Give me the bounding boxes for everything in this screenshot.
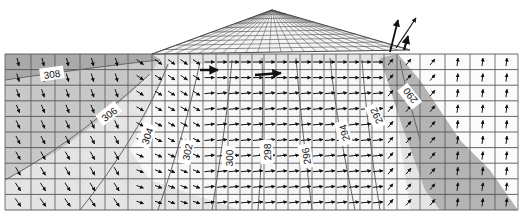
- contour-label-text: 300: [224, 149, 236, 166]
- contour-label: 300: [222, 146, 236, 170]
- embankment-mesh: [152, 10, 410, 54]
- velocity-arrow: [404, 36, 408, 50]
- contour-label: 298: [260, 140, 274, 164]
- flow-net-diagram: 308306304302300298296294292290: [0, 0, 523, 218]
- flow-net-canvas: 308306304302300298296294292290: [0, 0, 523, 218]
- contour-label-text: 298: [262, 143, 274, 160]
